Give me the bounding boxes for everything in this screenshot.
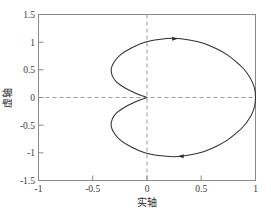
direction-arrow-upper-icon <box>172 37 178 41</box>
nyquist-plot-figure: 1.5 1 0.5 0 -0.5 -1 -1.5 -1 -0.5 0 0.5 1… <box>0 0 271 213</box>
x-tick-label-2: 0 <box>145 184 150 194</box>
y-tick-label-6: -1.5 <box>20 176 35 186</box>
x-tick-label-3: 0.5 <box>195 184 207 194</box>
direction-arrow-lower-icon <box>178 154 184 158</box>
y-tick-label-2: 0.5 <box>23 65 35 75</box>
y-axis-title: 虚轴 <box>1 88 13 108</box>
y-tick-label-3: 0 <box>30 93 35 103</box>
x-tick-label-0: -1 <box>35 184 43 194</box>
y-tick-label-0: 1.5 <box>23 10 35 20</box>
x-tick-label-4: 1 <box>253 184 258 194</box>
x-tick-label-1: -0.5 <box>85 184 100 194</box>
y-tick-label-5: -1 <box>27 148 35 158</box>
y-axis-ticks <box>39 15 44 181</box>
y-tick-label-4: -0.5 <box>20 121 35 131</box>
y-tick-label-1: 1 <box>30 38 35 48</box>
x-axis-title: 实轴 <box>137 196 157 208</box>
x-axis-ticks <box>39 176 256 181</box>
chart-canvas: 1.5 1 0.5 0 -0.5 -1 -1.5 -1 -0.5 0 0.5 1… <box>0 0 271 213</box>
